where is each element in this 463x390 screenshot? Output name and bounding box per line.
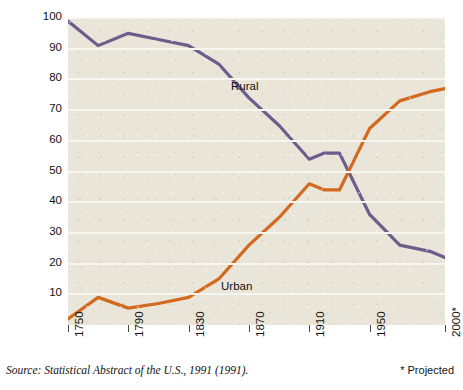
x-tick-mark: [309, 325, 310, 332]
gridline: [68, 17, 445, 19]
y-tick-label: 60: [28, 134, 62, 146]
x-tick-label: 1750: [74, 311, 86, 337]
gridline: [68, 232, 445, 234]
x-tick-label: 1790: [134, 311, 146, 337]
series-label-rural: Rural: [231, 80, 258, 92]
gridline: [68, 293, 445, 295]
y-tick-label: 30: [28, 226, 62, 238]
series-label-urban: Urban: [221, 280, 252, 292]
y-tick-label: 10: [28, 287, 62, 299]
x-tick-label: 1910: [315, 311, 327, 337]
gridline: [68, 201, 445, 203]
x-tick-label: 1950: [376, 311, 388, 337]
gridline: [68, 48, 445, 50]
x-tick-mark: [68, 325, 69, 332]
x-axis-ticks: 1750179018301870191019502000*: [0, 325, 460, 385]
x-tick-label: 2000*: [451, 307, 463, 337]
gridline: [68, 263, 445, 265]
y-tick-label: 80: [28, 72, 62, 84]
y-tick-label: 50: [28, 165, 62, 177]
y-tick-label: 20: [28, 257, 62, 269]
plot-area: Rural Urban: [68, 18, 445, 325]
y-tick-label: 90: [28, 42, 62, 54]
x-tick-mark: [128, 325, 129, 332]
y-tick-label: 40: [28, 195, 62, 207]
x-tick-label: 1870: [255, 311, 267, 337]
gridline: [68, 109, 445, 111]
x-tick-mark: [370, 325, 371, 332]
x-tick-mark: [189, 325, 190, 332]
x-tick-label: 1830: [195, 311, 207, 337]
y-tick-label: 100: [28, 11, 62, 23]
projected-note: * Projected: [400, 364, 454, 376]
x-tick-mark: [445, 325, 446, 332]
gridline: [68, 171, 445, 173]
gridline: [68, 140, 445, 142]
source-note: Source: Statistical Abstract of the U.S.…: [6, 364, 248, 376]
y-tick-label: 70: [28, 103, 62, 115]
x-tick-mark: [249, 325, 250, 332]
series-line-urban: [68, 89, 445, 319]
